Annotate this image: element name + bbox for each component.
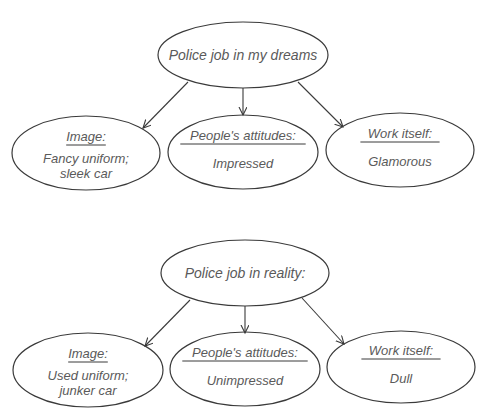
child-heading: Image: — [68, 346, 108, 361]
child-value: Impressed — [213, 156, 274, 171]
arrow-edge — [143, 82, 188, 128]
child-node-work-itself: Work itself:Glamorous — [326, 113, 474, 187]
child-value: junker car — [57, 383, 117, 398]
child-value: Used uniform; — [48, 368, 129, 383]
child-ellipse — [170, 332, 320, 406]
child-heading: People's attitudes: — [192, 345, 298, 360]
child-heading: Work itself: — [368, 126, 433, 141]
root-node: Police job in my dreams — [158, 22, 328, 88]
root-label: Police job in my dreams — [169, 47, 318, 63]
root-label: Police job in reality: — [185, 265, 306, 281]
child-ellipse — [326, 113, 474, 187]
child-heading: Work itself: — [369, 343, 434, 358]
child-node-people-s-attitudes: People's attitudes:Impressed — [168, 115, 318, 189]
child-heading: Image: — [66, 129, 106, 144]
arrow-edge — [302, 298, 344, 344]
child-value: sleek car — [60, 166, 113, 181]
child-value: Unimpressed — [207, 373, 284, 388]
child-node-image: Image:Fancy uniform;sleek car — [12, 116, 160, 190]
arrow-edge — [298, 82, 343, 127]
child-value: Dull — [390, 371, 414, 386]
dreams-diagram: Police job in my dreamsImage:Fancy unifo… — [12, 22, 474, 190]
arrow-edge — [145, 300, 190, 346]
child-ellipse — [327, 331, 475, 403]
child-heading: People's attitudes: — [190, 128, 296, 143]
child-node-work-itself: Work itself:Dull — [327, 331, 475, 403]
child-value: Glamorous — [368, 154, 432, 169]
reality-diagram: Police job in reality:Image:Used uniform… — [13, 240, 475, 407]
root-node: Police job in reality: — [161, 240, 329, 306]
child-node-image: Image:Used uniform;junker car — [13, 333, 163, 407]
child-node-people-s-attitudes: People's attitudes:Unimpressed — [170, 332, 320, 406]
child-ellipse — [168, 115, 318, 189]
diagram-canvas: Police job in my dreamsImage:Fancy unifo… — [0, 0, 492, 416]
child-value: Fancy uniform; — [43, 151, 129, 166]
